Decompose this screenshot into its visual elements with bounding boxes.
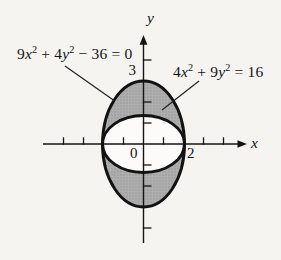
y-axis-arrowhead-icon bbox=[140, 35, 148, 45]
outer-equation-leader-line bbox=[65, 66, 114, 101]
inner-ellipse-equation-label: 4x2 + 9y2 = 16 bbox=[173, 63, 263, 80]
ellipse-figure-svg bbox=[0, 0, 281, 260]
x-axis-label: x bbox=[251, 135, 258, 151]
figure-canvas: 9x2 + 4y2 − 36 = 0 4x2 + 9y2 = 16 3 0 2 … bbox=[0, 0, 281, 260]
outer-ellipse-equation-label: 9x2 + 4y2 − 36 = 0 bbox=[17, 45, 132, 62]
y-axis-tick-label-3: 3 bbox=[119, 63, 136, 79]
x-axis-tick-label-2: 2 bbox=[187, 146, 195, 162]
x-axis-arrowhead-icon bbox=[238, 140, 248, 148]
origin-label: 0 bbox=[130, 146, 138, 162]
y-axis-label: y bbox=[147, 10, 154, 26]
